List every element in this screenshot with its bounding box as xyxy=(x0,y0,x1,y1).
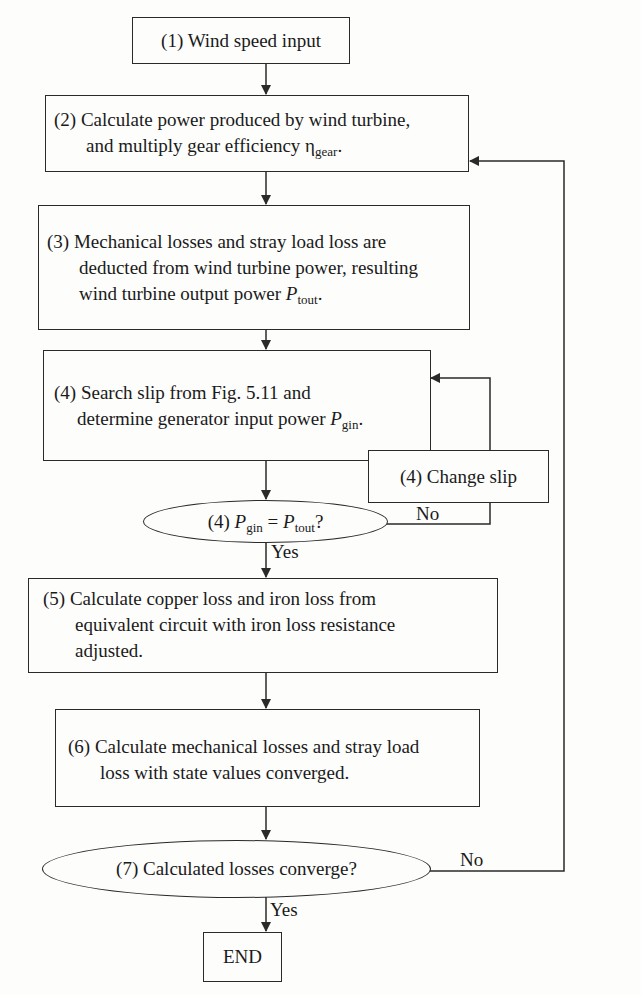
step-4-change-slip: (4) Change slip xyxy=(368,450,549,503)
end-terminal: END xyxy=(203,932,282,982)
step-4-search-slip: (4) Search slip from Fig. 5.11 and deter… xyxy=(43,350,431,461)
step-5-copper-iron-loss: (5) Calculate copper loss and iron loss … xyxy=(28,578,498,673)
change-slip-text: (4) Change slip xyxy=(400,464,517,490)
step-6-line-1: (6) Calculate mechanical losses and stra… xyxy=(68,734,479,760)
step-3-mechanical-losses: (3) Mechanical losses and stray load los… xyxy=(38,205,470,330)
step-5-line-2: equivalent circuit with iron loss resist… xyxy=(43,612,497,638)
step-2-line-1: (2) Calculate power produced by wind tur… xyxy=(54,107,468,133)
step-6-line-2: loss with state values converged. xyxy=(68,760,479,786)
end-text: END xyxy=(223,944,262,970)
step-5-line-1: (5) Calculate copper loss and iron loss … xyxy=(43,586,497,612)
decision-7-text: (7) Calculated losses converge? xyxy=(116,858,357,880)
step-4-line-2: determine generator input power Pgin. xyxy=(54,406,430,432)
decision-7-no-label: No xyxy=(460,849,483,871)
step-6-mechanical-stray-loss: (6) Calculate mechanical losses and stra… xyxy=(55,709,480,807)
step-5-line-3: adjusted. xyxy=(43,638,497,664)
decision-4-no-label: No xyxy=(416,503,439,525)
arrow-change-slip-to-4 xyxy=(431,378,490,450)
step-2-line-2: and multiply gear efficiency ηgear. xyxy=(54,133,468,159)
step-3-line-2: deducted from wind turbine power, result… xyxy=(47,255,469,281)
step-1-text: (1) Wind speed input xyxy=(161,28,321,54)
step-3-line-3: wind turbine output power Ptout. xyxy=(47,281,469,307)
decision-4-text: (4) Pgin = Ptout? xyxy=(208,511,324,533)
decision-4-yes-label: Yes xyxy=(271,541,299,563)
step-3-line-1: (3) Mechanical losses and stray load los… xyxy=(47,229,469,255)
decision-7-losses-converge: (7) Calculated losses converge? xyxy=(42,840,431,898)
flowchart-canvas: (1) Wind speed input (2) Calculate power… xyxy=(0,0,641,995)
decision-7-yes-label: Yes xyxy=(270,899,298,921)
step-1-wind-speed-input: (1) Wind speed input xyxy=(132,17,350,64)
step-2-calculate-power: (2) Calculate power produced by wind tur… xyxy=(45,95,469,172)
decision-4-power-match: (4) Pgin = Ptout? xyxy=(143,500,388,543)
step-4-line-1: (4) Search slip from Fig. 5.11 and xyxy=(54,380,430,406)
